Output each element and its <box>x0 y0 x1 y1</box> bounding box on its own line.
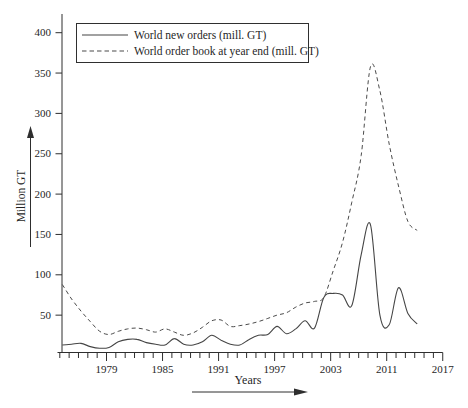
y-axis-title: Million GT <box>14 151 28 242</box>
dashed-line-sample-icon <box>81 48 129 54</box>
legend-item-order-book: World order book at year end (mill. GT) <box>81 45 308 57</box>
y-tick-label: 100 <box>20 268 51 281</box>
x-tick-label: 2011 <box>368 363 406 376</box>
new-orders-line <box>62 223 417 349</box>
x-tick-label: 1985 <box>144 363 182 376</box>
legend-item-new-orders: World new orders (mill. GT) <box>81 29 308 41</box>
x-tick-label: 2017 <box>424 363 462 376</box>
x-axis-title: Years <box>216 373 280 388</box>
x-tick-label: 1979 <box>88 363 126 376</box>
solid-line-sample-icon <box>81 32 129 38</box>
legend: World new orders (mill. GT) World order … <box>76 23 309 63</box>
order-book-line <box>62 64 417 336</box>
legend-label-order-book: World order book at year end (mill. GT) <box>134 45 319 57</box>
x-tick-label: 2003 <box>312 363 350 376</box>
y-tick-label: 350 <box>20 67 51 80</box>
y-tick-label: 50 <box>20 309 51 322</box>
y-tick-label: 300 <box>20 107 51 120</box>
legend-label-new-orders: World new orders (mill. GT) <box>134 29 266 41</box>
chart-figure: 50100150200250300350400 1979198519911997… <box>0 0 468 408</box>
y-tick-label: 400 <box>20 26 51 39</box>
x-axis-right-arrow-icon <box>191 387 309 397</box>
